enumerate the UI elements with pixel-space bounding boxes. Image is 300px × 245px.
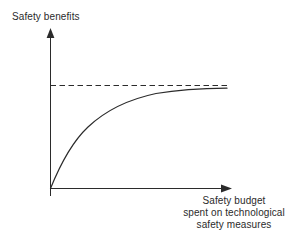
y-axis-arrowhead-icon [47,28,55,38]
safety-benefits-diminishing-returns-figure: Safety benefits Safety budget spent on t… [0,0,300,245]
safety-benefits-curve [51,88,228,188]
x-axis-arrowhead-icon [221,184,232,192]
x-axis-label: Safety budget spent on technological saf… [164,195,300,231]
y-axis-label: Safety benefits [12,11,80,23]
